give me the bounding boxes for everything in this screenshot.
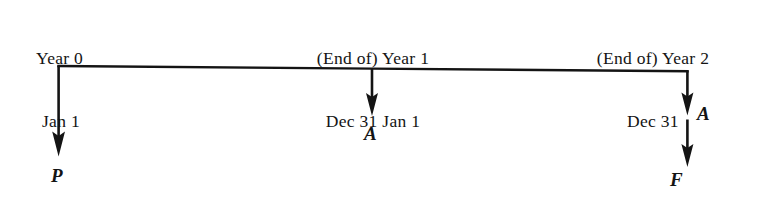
cash-flow-symbol-p: P — [51, 166, 63, 185]
cash-flow-symbol-f: F — [670, 170, 683, 189]
timeline-label-year1: (End of) Year 1 Dec 31 Jan 1 — [286, 6, 460, 174]
cash-flow-symbol-a-year1: A — [364, 124, 377, 143]
cash-flow-symbol-a-year2: A — [697, 104, 710, 123]
timeline-label-year2-line1: (End of) Year 2 — [578, 48, 728, 69]
cash-flow-timeline-diagram: Year 0 Jan 1 (End of) Year 1 Dec 31 Jan … — [0, 0, 758, 203]
timeline-label-year2: (End of) Year 2 Dec 31 — [578, 6, 728, 174]
timeline-label-year0-line1: Year 0 — [36, 48, 112, 69]
timeline-label-year0-line2: Jan 1 — [42, 111, 112, 132]
timeline-label-year0: Year 0 Jan 1 — [36, 6, 112, 174]
timeline-label-year1-line1: (End of) Year 1 — [286, 48, 460, 69]
